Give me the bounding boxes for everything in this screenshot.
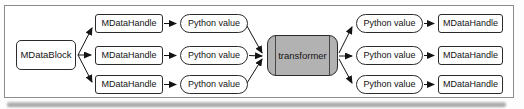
- node-input-handle-3: MDataHandle: [95, 75, 163, 94]
- page-scan-shadow: [7, 102, 506, 107]
- node-input-handle-2: MDataHandle: [95, 46, 163, 65]
- node-input-value-3: Python value: [180, 75, 248, 94]
- node-transformer: transformer: [267, 35, 338, 76]
- node-output-value-1: Python value: [356, 14, 423, 33]
- cylinder-edge-line: [329, 36, 330, 75]
- node-output-handle-1: MDataHandle: [438, 14, 503, 33]
- node-input-value-2: Python value: [180, 46, 248, 65]
- node-input-value-1: Python value: [180, 14, 248, 33]
- node-output-handle-3: MDataHandle: [438, 75, 503, 94]
- node-output-value-3: Python value: [356, 75, 423, 94]
- node-output-value-2: Python value: [356, 46, 423, 65]
- node-output-handle-2: MDataHandle: [438, 46, 503, 65]
- cylinder-edge-line: [275, 36, 276, 75]
- transformer-label: transformer: [278, 51, 327, 61]
- node-mdatablock: MDataBlock: [16, 40, 76, 70]
- diagram-canvas: MDataBlock MDataHandle MDataHandle MData…: [0, 0, 524, 109]
- node-input-handle-1: MDataHandle: [95, 14, 163, 33]
